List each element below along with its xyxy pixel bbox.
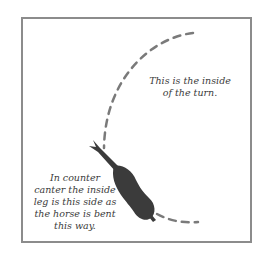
inside-of-turn-label: This is the inside of the turn.: [140, 75, 240, 99]
counter-label-line-1: In counter: [30, 172, 120, 184]
counter-canter-label: In counter canter the inside leg is this…: [30, 172, 120, 232]
counter-label-line-5: this way.: [30, 220, 120, 232]
inside-label-line-2: of the turn.: [140, 87, 240, 99]
counter-label-line-2: canter the inside: [30, 184, 120, 196]
counter-label-line-3: leg is this side as: [30, 196, 120, 208]
inside-label-line-1: This is the inside: [140, 75, 240, 87]
counter-label-line-4: the horse is bent: [30, 208, 120, 220]
